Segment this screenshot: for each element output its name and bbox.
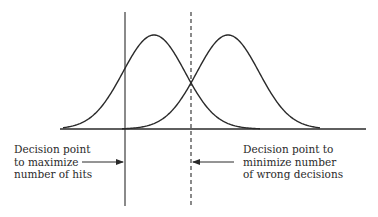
label-line: number of hits [14, 168, 92, 181]
label-minimize-wrong-decisions: Decision point to minimize number of wro… [243, 143, 343, 181]
label-line: of wrong decisions [243, 168, 343, 181]
label-line: Decision point to [243, 143, 343, 156]
noise-distribution-curve [63, 35, 260, 129]
label-maximize-hits: Decision point to maximize number of hit… [14, 143, 92, 181]
signal-distribution-curve [122, 35, 320, 129]
label-line: to maximize [14, 156, 92, 169]
label-line: Decision point [14, 143, 92, 156]
label-line: minimize number [243, 156, 343, 169]
diagram-canvas [0, 0, 378, 217]
